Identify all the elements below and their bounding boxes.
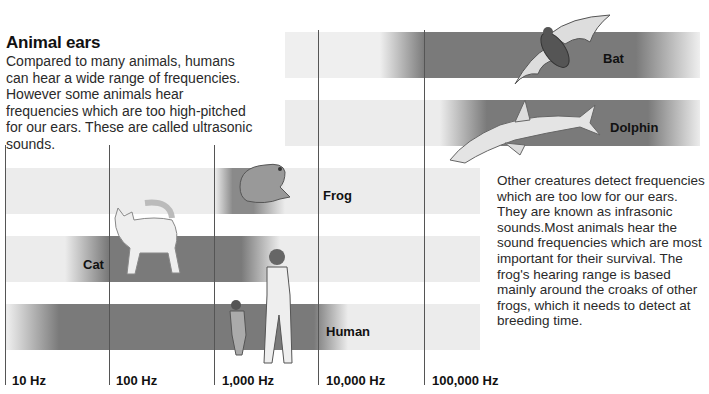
side-paragraph: Other creatures detect frequencies which… — [497, 173, 707, 329]
label-frog: Frog — [323, 188, 352, 203]
axis-tick-10hz: 10 Hz — [12, 373, 46, 388]
label-human: Human — [326, 324, 370, 339]
human-illustration — [222, 245, 302, 370]
axis-tick-100hz: 100 Hz — [116, 373, 157, 388]
dolphin-illustration — [445, 95, 605, 165]
label-bat: Bat — [603, 51, 624, 66]
gridline-10000hz — [318, 30, 319, 385]
cat-illustration — [110, 198, 195, 278]
page-title: Animal ears — [6, 33, 100, 53]
gridline-100000hz — [424, 30, 425, 385]
label-dolphin: Dolphin — [610, 120, 658, 135]
axis-tick-100000hz: 100,000 Hz — [432, 373, 499, 388]
gridline-10hz — [5, 145, 6, 385]
bat-illustration — [510, 12, 615, 87]
intro-paragraph: Compared to many animals, humans can hea… — [6, 53, 256, 152]
gridline-1000hz — [214, 145, 215, 385]
frog-illustration — [235, 157, 295, 207]
label-cat: Cat — [83, 257, 104, 272]
axis-tick-10000hz: 10,000 Hz — [326, 373, 385, 388]
axis-tick-1000hz: 1,000 Hz — [222, 373, 274, 388]
